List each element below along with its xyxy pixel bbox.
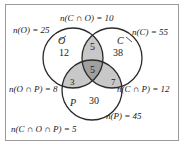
count-o-and-p: 3 — [70, 78, 75, 87]
count-c-and-o-and-p: 5 — [90, 65, 95, 75]
label-n-c-and-o: n(C ∩ O) = 10 — [60, 14, 114, 23]
label-n-o: n(O) = 25 — [13, 26, 50, 35]
label-n-c: n(C) = 55 — [132, 28, 168, 37]
count-o-only: 12 — [59, 48, 69, 58]
venn-diagram-page: O C P 12 38 30 5 5 3 7 n(C ∩ O) = 10 n(O… — [0, 0, 186, 148]
set-label-o: O — [58, 36, 65, 46]
set-label-p: P — [70, 98, 76, 108]
label-n-p: n(P) = 45 — [106, 112, 142, 121]
label-n-c-and-p: n(C ∩ P) = 12 — [117, 85, 170, 94]
leader-line-c — [126, 37, 132, 42]
count-c-only: 38 — [113, 48, 123, 58]
count-c-and-p: 7 — [111, 78, 116, 87]
set-label-c: C — [117, 36, 124, 46]
label-n-c-and-o-and-p: n(C ∩ O ∩ P) = 5 — [11, 125, 77, 134]
label-n-o-and-p: n(O ∩ P) = 8 — [9, 85, 58, 94]
count-p-only: 30 — [89, 96, 99, 106]
count-c-and-o: 5 — [90, 42, 95, 52]
